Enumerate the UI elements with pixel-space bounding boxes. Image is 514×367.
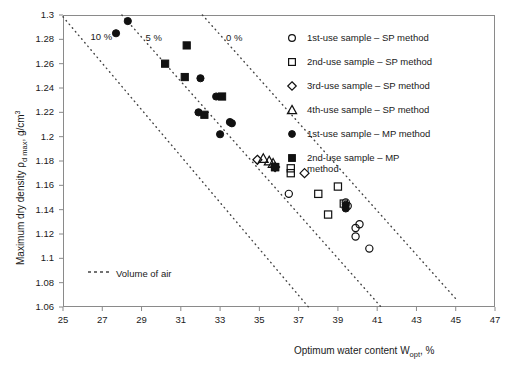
x-axis-title-sub: opt [410, 350, 420, 359]
data-point [162, 60, 169, 67]
legend-marker-2 [288, 82, 297, 91]
x-axis-title-tail: , % [420, 345, 434, 356]
x-tick-label: 45 [444, 315, 468, 325]
y-tick-label: 1.06 [14, 302, 54, 312]
x-tick-label: 37 [287, 315, 311, 325]
x-axis-title: Optimum water content Wopt, % [294, 345, 434, 359]
chart-canvas [0, 0, 514, 367]
data-point [342, 205, 349, 212]
legend-item-label: 1st-use sample – MP method [307, 128, 430, 139]
volume-of-air-legend-label: Volume of air [116, 268, 171, 279]
data-point [216, 131, 223, 138]
legend-marker-1 [289, 59, 296, 66]
x-tick-label: 25 [51, 315, 75, 325]
x-tick-label: 41 [365, 315, 389, 325]
legend-marker-5 [289, 155, 296, 162]
data-point [181, 73, 188, 80]
y-axis-title: Maximum dry density ρd max, g/cm3 [14, 110, 29, 265]
air-void-label: 10 % [90, 31, 112, 42]
data-point [287, 165, 294, 172]
y-axis-ticks [59, 15, 63, 307]
data-point [183, 42, 190, 49]
data-point [228, 120, 235, 127]
y-axis-title-main: Maximum dry density [15, 171, 26, 265]
data-point [324, 211, 331, 218]
legend-marker-0 [289, 35, 296, 42]
data-point [218, 93, 225, 100]
x-axis-title-main: Optimum water content W [294, 345, 410, 356]
y-axis-title-unit-exp: 3 [14, 110, 21, 114]
x-tick-label: 29 [130, 315, 154, 325]
data-point [366, 245, 373, 252]
data-point [271, 163, 278, 170]
legend-item-label: 4th-use sample – SP method [307, 104, 429, 115]
legend-markers [287, 35, 296, 162]
x-tick-label: 31 [169, 315, 193, 325]
air-void-label: 5 % [145, 32, 161, 43]
data-point [287, 170, 294, 177]
y-tick-label: 1.24 [14, 83, 54, 93]
data-point [197, 75, 204, 82]
chart-root: 1.061.081.11.121.141.161.181.21.221.241.… [0, 0, 514, 367]
data-point [334, 183, 341, 190]
y-axis-title-rho: ρ [15, 162, 26, 168]
y-tick-label: 1.26 [14, 59, 54, 69]
y-tick-label: 1.28 [14, 34, 54, 44]
data-point [315, 190, 322, 197]
data-point [352, 233, 359, 240]
data-point [285, 190, 292, 197]
legend-item-label: 3rd-use sample – SP method [307, 80, 430, 91]
legend-item-label-line2: method [307, 163, 339, 174]
legend-item-label: 1st-use sample – SP method [307, 32, 429, 43]
data-point [124, 17, 131, 24]
data-point [112, 30, 119, 37]
air-void-label: 0 % [226, 32, 242, 43]
x-tick-label: 43 [404, 315, 428, 325]
y-axis-title-rho-sub: d max [20, 142, 29, 162]
x-tick-label: 47 [483, 315, 507, 325]
y-tick-label: 1.08 [14, 278, 54, 288]
legend-item-label: 2nd-use sample – SP method [307, 56, 432, 67]
x-tick-label: 33 [208, 315, 232, 325]
y-tick-label: 1.3 [14, 10, 54, 20]
x-tick-label: 27 [90, 315, 114, 325]
legend-marker-4 [289, 131, 296, 138]
x-axis-ticks [63, 307, 495, 311]
x-tick-label: 35 [247, 315, 271, 325]
y-axis-title-unit: , g/cm [15, 114, 26, 141]
x-tick-label: 39 [326, 315, 350, 325]
data-point [201, 111, 208, 118]
legend-item-label: 2nd-use sample – MP [307, 152, 399, 163]
